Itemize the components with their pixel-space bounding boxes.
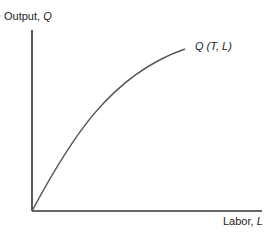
y-axis-variable: Q [43,10,52,22]
production-function-chart [0,0,276,235]
x-axis-variable: L [257,215,263,227]
curve-label: Q (T, L) [195,40,232,52]
y-axis-label: Output, Q [4,10,52,22]
y-axis-label-text: Output, [4,10,40,22]
x-axis-label-text: Labor, [223,215,254,227]
production-curve [32,49,185,211]
x-axis-label: Labor, L [223,215,263,227]
